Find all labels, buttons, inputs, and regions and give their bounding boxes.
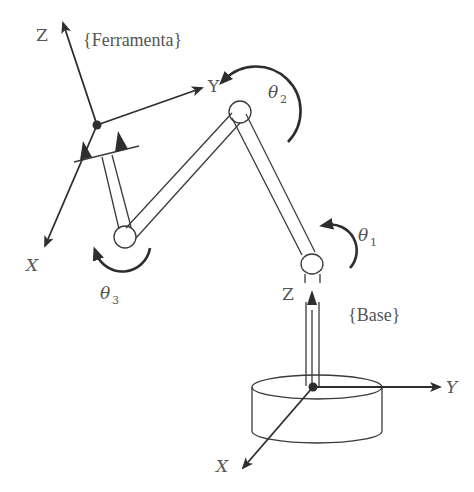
svg-text:θ: θ — [268, 82, 278, 102]
tool-y-axis — [97, 88, 202, 125]
svg-text:2: 2 — [280, 93, 287, 106]
theta3-rotation-arrow-icon — [96, 248, 150, 272]
tool-y-label: Y — [207, 76, 220, 96]
link-wrist — [102, 155, 131, 229]
base-origin-icon — [309, 383, 318, 392]
tool-x-axis — [45, 125, 97, 246]
svg-text:3: 3 — [112, 294, 119, 307]
base-frame-label: {Base} — [348, 305, 400, 325]
tool-z-label: Z — [36, 25, 48, 45]
base-column — [305, 274, 320, 386]
svg-text:θ: θ — [100, 283, 110, 303]
theta1-label: θ 1 — [358, 225, 377, 249]
theta3-label: θ 3 — [100, 283, 119, 307]
base-y-label: Y — [446, 377, 459, 397]
tool-frame-label: {Ferramenta} — [83, 30, 182, 50]
tool-origin-icon — [93, 121, 102, 130]
link-upper-arm — [232, 114, 315, 255]
link-forearm — [126, 113, 240, 238]
tool-frame — [45, 23, 202, 246]
base-x-label: X — [214, 456, 229, 476]
theta1-rotation-arrow-icon — [326, 225, 357, 268]
svg-text:θ: θ — [358, 225, 368, 245]
base-z-arrowhead-icon — [307, 290, 317, 305]
theta2-rotation-arrow-icon — [224, 66, 301, 142]
theta2-label: θ 2 — [268, 82, 287, 106]
base-x-axis — [243, 387, 313, 468]
base-z-label: Z — [282, 284, 294, 304]
joint-2 — [229, 101, 251, 123]
joint-1 — [301, 254, 323, 274]
joint-3 — [114, 226, 136, 248]
svg-text:1: 1 — [370, 236, 377, 249]
robot-arm-diagram: Z {Ferramenta} Y X θ 2 θ 1 θ 3 Z {Base} … — [0, 0, 474, 492]
tool-x-label: X — [24, 255, 39, 275]
